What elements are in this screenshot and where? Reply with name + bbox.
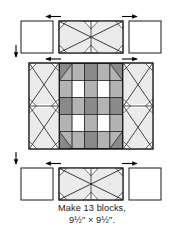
plain-square-top-right (129, 21, 161, 53)
center-cell (97, 98, 110, 115)
plain-square-bottom-left (21, 168, 53, 200)
center-cell (110, 115, 123, 132)
center-cell (85, 98, 98, 115)
center-cell (72, 81, 85, 98)
center-cell (72, 115, 85, 132)
plain-square-bottom-right (129, 168, 161, 200)
quilt-diagram-svg (0, 0, 184, 234)
center-cell (72, 98, 85, 115)
plain-square-top-left (21, 21, 53, 53)
snowball-pair-top (59, 21, 123, 53)
caption-line-2: 9½" × 9½". (0, 215, 184, 227)
center-cell (85, 115, 98, 132)
center-cell (60, 115, 73, 132)
center-cell (60, 98, 73, 115)
center-cell (97, 115, 110, 132)
snowball-pair-bottom (59, 168, 123, 200)
center-cell (60, 81, 73, 98)
caption: Make 13 blocks, 9½" × 9½". (0, 203, 184, 226)
center-cell (72, 132, 85, 149)
center-cell (110, 81, 123, 98)
middle-row (29, 59, 153, 149)
center-cell (72, 64, 85, 81)
center-cell (97, 64, 110, 81)
center-cell (85, 81, 98, 98)
center-cell (85, 64, 98, 81)
snowball-column-right (124, 64, 153, 149)
caption-line-1: Make 13 blocks, (0, 203, 184, 215)
center-cell (85, 132, 98, 149)
top-row (21, 17, 161, 54)
center-cell (97, 132, 110, 149)
snowball-column-left (30, 64, 59, 149)
center-cell (110, 98, 123, 115)
quilt-assembly-diagram: Make 13 blocks, 9½" × 9½". (0, 0, 184, 234)
center-cell (97, 81, 110, 98)
nine-patch-center (60, 64, 123, 149)
bottom-row (21, 164, 161, 201)
